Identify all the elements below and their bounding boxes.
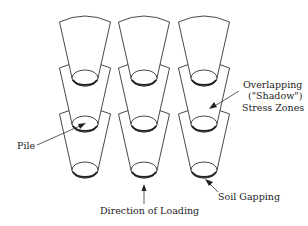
direction-arrow xyxy=(142,184,147,204)
soil-gapping-arrow xyxy=(205,179,218,192)
soil-gapping-label: Soil Gapping xyxy=(218,191,280,202)
pile-label: Pile xyxy=(17,140,35,151)
stress-cones xyxy=(60,16,230,178)
overlap-label-line2: ("Shadow") xyxy=(248,90,302,101)
direction-of-loading-label: Direction of Loading xyxy=(100,205,199,216)
overlap-label-line3: Stress Zones xyxy=(242,102,304,113)
pile-group-diagram: Pile Overlapping ("Shadow") Stress Zones… xyxy=(0,0,308,226)
overlap-label-line1: Overlapping xyxy=(243,79,302,90)
